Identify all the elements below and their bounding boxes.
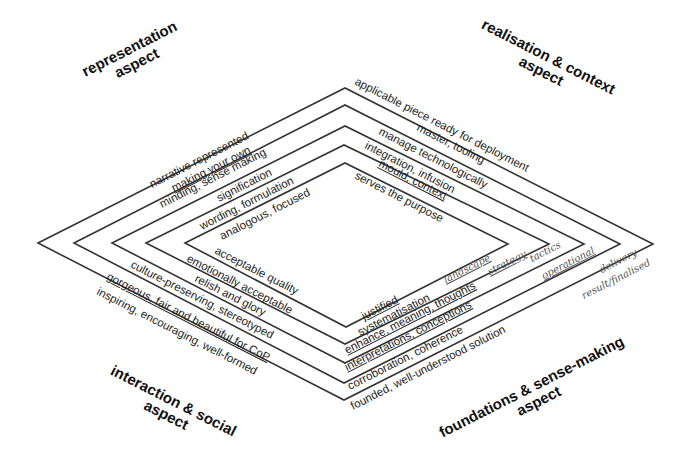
aspect-diamond-diagram: representation aspect realisation & cont…: [0, 0, 693, 474]
diamond-level-1: [38, 88, 653, 400]
